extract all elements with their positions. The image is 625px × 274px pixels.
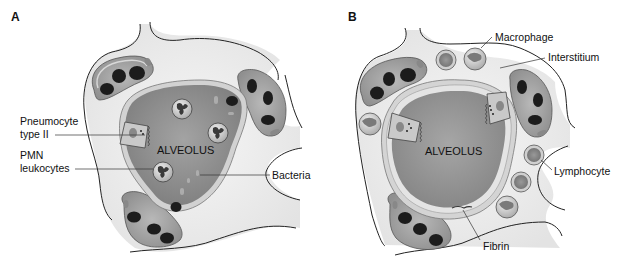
callout-pneumocyte-line2: type II [20,128,49,140]
red-blood-cell [261,115,275,125]
pneumocyte-type-ii-b-right [486,92,511,124]
callout-fibrin: Fibrin [483,240,509,252]
callout-interstitium: Interstitium [548,51,600,63]
alveolus-label-b: ALVEOLUS [425,145,482,157]
lymphocyte [511,172,531,192]
red-blood-cell [171,202,182,212]
panel-a: A [11,10,311,252]
macrophage [496,196,518,218]
panel-b-label: B [348,10,357,24]
red-blood-cell [160,233,174,244]
red-blood-cell [413,223,427,235]
red-blood-cell [533,93,543,107]
red-blood-cell [112,69,126,83]
callout-bacteria: Bacteria [272,169,311,181]
red-blood-cell [147,224,161,235]
macrophage [464,48,486,70]
pmn-leukocyte [172,99,192,119]
red-blood-cell [517,80,527,94]
red-blood-cell [127,212,141,223]
leader-line [481,37,492,48]
pmn-leukocyte [208,123,228,143]
macrophage [359,113,381,135]
callout-pmn-line1: PMN [20,149,43,161]
red-blood-cell [129,66,145,80]
red-blood-cell [400,68,416,82]
callout-macrophage: Macrophage [495,31,554,43]
panel-b: B [348,10,610,255]
red-blood-cell [370,87,384,100]
leader-line [541,160,552,170]
pmn-leukocyte [153,162,173,182]
callout-lymphocyte: Lymphocyte [554,165,610,177]
lymphocyte [524,145,544,165]
alveolus-label-a: ALVEOLUS [157,144,214,156]
red-blood-cell [247,79,257,93]
interstitium-outline-right-a [285,75,302,128]
callout-pneumocyte-line1: Pneumocyte [20,115,79,127]
callout-pmn-line2: leukocytes [20,162,70,174]
lymphocyte [436,50,456,70]
pneumonia-alveolus-figure: A [0,0,625,274]
red-blood-cell [383,72,395,86]
red-blood-cell [263,91,273,105]
red-blood-cell [226,96,238,106]
panel-a-label: A [11,10,20,24]
red-blood-cell [398,212,412,224]
red-blood-cell [429,234,443,246]
red-blood-cell [100,83,114,95]
red-blood-cell [528,115,542,125]
